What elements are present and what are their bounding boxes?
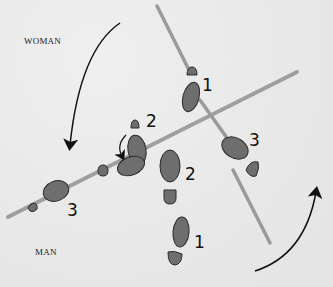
- man-label: MAN: [35, 247, 57, 257]
- man-step2-sole-icon: [160, 150, 180, 182]
- pivot-arrow-icon: [120, 135, 126, 156]
- woman-direction-line: [157, 6, 189, 70]
- man-pivot-heel-icon: [98, 165, 108, 176]
- footprints: [28, 67, 259, 265]
- woman-step3-number: 3: [249, 132, 260, 149]
- woman-step3-heel-icon: [246, 162, 259, 177]
- woman-step1-heel-icon: [187, 67, 197, 75]
- diagonal-line-lower: [233, 170, 270, 243]
- man-step1-heel-icon: [168, 251, 182, 265]
- man-step1-sole-icon: [172, 216, 191, 247]
- woman-step1-sole-icon: [179, 80, 202, 113]
- woman-label: WOMAN: [24, 36, 61, 46]
- dance-step-diagram: WOMAN MAN 1 2 3 2 1 3: [0, 0, 333, 287]
- man-step1-number: 1: [194, 234, 205, 251]
- man-step3-number: 3: [67, 202, 78, 219]
- woman-step2-heel-icon: [131, 120, 139, 128]
- woman-rotation-arrow-icon: [70, 23, 120, 145]
- woman-step3-sole-icon: [218, 132, 252, 163]
- woman-step1-number: 1: [202, 77, 213, 94]
- man-step2-number: 2: [185, 166, 196, 183]
- man-step2-heel-icon: [164, 190, 176, 204]
- woman-step2-number: 2: [146, 113, 157, 130]
